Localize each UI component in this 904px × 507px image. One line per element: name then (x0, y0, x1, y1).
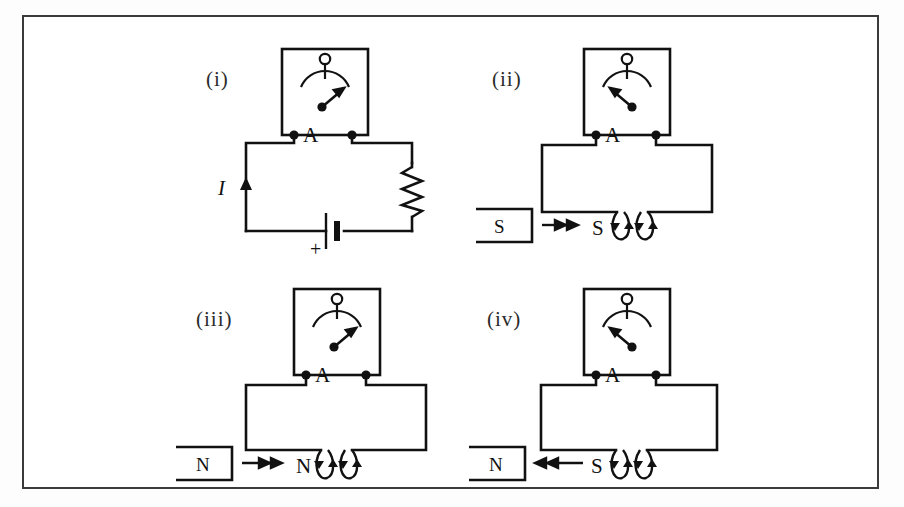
meter-terminal-left-i (289, 130, 298, 139)
meter-box-iv (584, 289, 670, 375)
meter-top-circle-i (320, 54, 330, 64)
meter-terminal-right-ii (651, 130, 660, 139)
coil-current-arrows-ii (610, 221, 658, 231)
panel-iv: (iv) A (469, 275, 774, 490)
panel-ii-label: (ii) (492, 67, 522, 92)
panel-iii: (iii) A (184, 275, 484, 490)
current-arrow-i (240, 177, 252, 190)
panel-i-label: (i) (206, 67, 229, 92)
meter-box-i (282, 49, 368, 135)
meter-terminal-left-ii (591, 130, 600, 139)
meter-terminal-left-iii (301, 370, 310, 379)
current-label-i: I (217, 176, 226, 200)
coil-pole-label-iv: S (591, 454, 603, 478)
meter-face-ii (603, 54, 651, 87)
meter-terminal-label-iv: A (605, 363, 621, 387)
meter-needle-ii (610, 88, 637, 112)
figure-frame: (i) (22, 15, 879, 489)
motion-arrow-ii (542, 220, 578, 230)
meter-face-iv (603, 294, 651, 327)
magnet-pole-label-iv: N (489, 454, 503, 475)
panel-i: (i) (184, 35, 464, 255)
resistor-i (402, 167, 422, 217)
meter-box-iii (294, 289, 380, 375)
panel-iv-label: (iv) (487, 307, 521, 332)
motion-arrow-iii (242, 458, 282, 468)
motion-arrow-iv (535, 458, 583, 468)
panel-ii: (ii) A (474, 35, 774, 255)
meter-terminal-left-iv (591, 370, 600, 379)
coil-iii (317, 450, 358, 478)
meter-top-circle-ii (622, 54, 632, 64)
magnet-pole-label-iii: N (196, 454, 210, 475)
coil-current-arrows-iii (314, 459, 362, 469)
meter-needle-i (317, 88, 344, 112)
coil-iv (612, 450, 653, 478)
meter-top-circle-iii (332, 294, 342, 304)
meter-needle-iv (610, 328, 637, 352)
coil-ii (613, 212, 654, 239)
battery-plus-label-i: + (310, 238, 321, 260)
coil-current-arrows-iv (609, 459, 657, 469)
meter-face-i (301, 54, 349, 87)
meter-needle-iii (329, 328, 356, 352)
coil-pole-label-ii: S (592, 216, 604, 240)
meter-terminal-right-i (347, 130, 356, 139)
battery-i (326, 213, 337, 249)
panel-iii-label: (iii) (196, 307, 233, 332)
meter-face-iii (313, 294, 361, 327)
meter-terminal-label-i: A (303, 123, 319, 147)
coil-pole-label-iii: N (296, 454, 311, 478)
magnet-pole-label-ii: S (494, 216, 505, 237)
meter-terminal-right-iii (361, 370, 370, 379)
meter-top-circle-iv (622, 294, 632, 304)
meter-terminal-label-ii: A (605, 123, 621, 147)
meter-terminal-right-iv (651, 370, 660, 379)
meter-terminal-label-iii: A (315, 363, 331, 387)
meter-box-ii (584, 49, 670, 135)
